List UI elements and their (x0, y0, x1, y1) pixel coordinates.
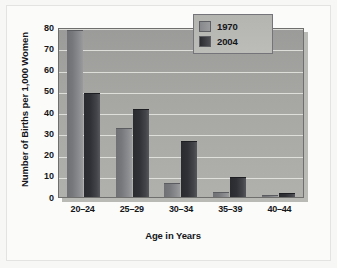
bar-1970-30-34 (164, 183, 180, 197)
legend-label-2004: 2004 (217, 36, 238, 47)
x-axis-tick-label: 25–29 (107, 204, 156, 214)
y-axis-title: Number of Births per 1,000 Women (19, 20, 30, 200)
bar-2004-40-44 (279, 193, 295, 197)
bar-group (254, 29, 303, 197)
x-axis-tick-label: 20–24 (58, 204, 107, 214)
x-axis-title: Age in Years (48, 230, 298, 241)
legend-swatch-1970-icon (199, 21, 211, 32)
x-axis-tick-label: 35–39 (206, 204, 255, 214)
bar-2004-25-29 (133, 109, 149, 197)
y-axis-tick-label: 60 (34, 66, 54, 75)
bar-1970-40-44 (262, 195, 278, 197)
y-axis-tick-label: 70 (34, 45, 54, 54)
x-axis-tick-labels: 20–2425–2930–3435–3940–44 (58, 204, 304, 214)
x-axis-tick-label: 30–34 (156, 204, 205, 214)
bar-group (108, 29, 157, 197)
bar-group (157, 29, 206, 197)
bar-1970-20-24 (67, 30, 83, 197)
bar-2004-20-24 (84, 93, 100, 197)
bar-group (205, 29, 254, 197)
y-axis-tick-label: 30 (34, 130, 54, 139)
legend-label-1970: 1970 (217, 21, 238, 32)
bar-1970-35-39 (213, 192, 229, 197)
legend-entry-2004: 2004 (199, 34, 267, 49)
y-axis-tick-label: 0 (34, 194, 54, 203)
chart-legend: 1970 2004 (193, 14, 273, 54)
bar-2004-35-39 (230, 177, 246, 197)
y-axis-tick-label: 20 (34, 151, 54, 160)
y-axis-tick-label: 80 (34, 24, 54, 33)
bar-chart-figure: Number of Births per 1,000 Women Age in … (0, 0, 337, 268)
y-axis-tick-label: 10 (34, 172, 54, 181)
y-axis-tick-labels: 80706050403020100 (32, 28, 54, 198)
y-axis-tick-label: 50 (34, 87, 54, 96)
bar-groups (59, 29, 303, 197)
legend-swatch-2004-icon (199, 36, 211, 47)
y-axis-tick-label: 40 (34, 109, 54, 118)
bar-group (59, 29, 108, 197)
bar-2004-30-34 (181, 141, 197, 197)
legend-entry-1970: 1970 (199, 19, 267, 34)
bar-1970-25-29 (116, 128, 132, 197)
x-axis-tick-label: 40–44 (255, 204, 304, 214)
